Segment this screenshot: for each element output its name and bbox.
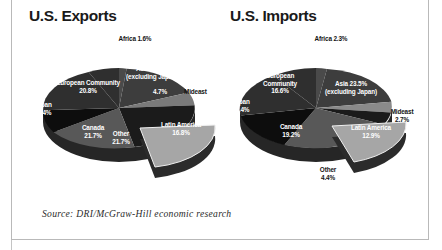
pie-svg-imports bbox=[228, 36, 428, 186]
slice-asia-imports bbox=[316, 69, 391, 108]
pie-stage-imports: Africa 2.3% Asia 23.5% (excluding Japan)… bbox=[228, 36, 428, 186]
figure-frame: U.S. Exports U.S. Imports bbox=[11, 0, 429, 240]
pie-chart-exports: Africa 1.6% Asia 17.2% (excluding Japan)… bbox=[28, 36, 228, 186]
slice-latin-america-exports-exploded bbox=[140, 125, 215, 178]
slice-latin-america-imports-exploded bbox=[332, 122, 406, 173]
page-title-exports: U.S. Exports bbox=[29, 7, 116, 25]
pie-stage-exports: Africa 1.6% Asia 17.2% (excluding Japan)… bbox=[28, 36, 228, 186]
pie-svg-exports bbox=[28, 36, 228, 186]
page-title-imports: U.S. Imports bbox=[230, 7, 317, 25]
source-note: Source: DRI/McGraw-Hill economic researc… bbox=[42, 208, 231, 219]
pie-chart-imports: Africa 2.3% Asia 23.5% (excluding Japan)… bbox=[228, 36, 428, 186]
